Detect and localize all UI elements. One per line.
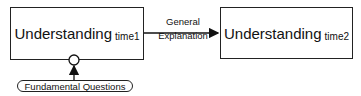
node-subscript: time2 [325, 31, 349, 42]
understanding-time2-box: Understanding time2 [220, 7, 353, 59]
edge-label-line2: Explanation [152, 31, 214, 41]
input-label: Fundamental Questions [25, 81, 126, 92]
edge-label-line1: General [152, 17, 214, 27]
edge-label: General Explanation [152, 17, 214, 41]
fundamental-questions-oval: Fundamental Questions [17, 80, 133, 92]
node-label: Understanding [224, 25, 322, 42]
input-port-icon [69, 55, 79, 65]
